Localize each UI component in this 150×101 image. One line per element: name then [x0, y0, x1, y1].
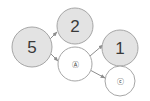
node-1-label: 1: [115, 39, 124, 58]
graph-node-middle[interactable]: Ⓐ: [58, 47, 92, 81]
node-5-label: 5: [27, 38, 36, 57]
graph-diagram-canvas: 5 2 Ⓐ 1 ⓒ: [0, 0, 150, 101]
graph-node-bottom-right[interactable]: ⓒ: [105, 66, 135, 96]
node-bottom-right-label: ⓒ: [117, 78, 124, 85]
graph-node-1[interactable]: 1: [102, 30, 138, 66]
edge-middle-to-bottom: [90, 70, 105, 78]
edge-middle-to-1: [90, 45, 103, 56]
edge-5-to-2: [50, 32, 57, 39]
graph-node-2[interactable]: 2: [57, 8, 93, 44]
node-2-label: 2: [70, 17, 79, 36]
node-middle-label: Ⓐ: [72, 61, 79, 68]
graph-svg-root: 5 2 Ⓐ 1 ⓒ: [0, 0, 150, 101]
graph-node-5[interactable]: 5: [12, 27, 52, 67]
edge-5-to-middle: [51, 54, 58, 61]
